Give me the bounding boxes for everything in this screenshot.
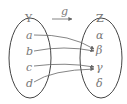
domain-element-a: a [26,29,33,42]
function-label: g [61,5,68,18]
domain-element-c: c [26,61,32,74]
mapping-arrow-d-gamma [34,69,94,82]
mapping-arrow-a-beta [34,35,94,49]
function-diagram: Y Z g a b c d α β γ δ [0,0,127,104]
codomain-element-alpha: α [96,29,104,42]
codomain-set-name: Z [96,12,104,25]
domain-element-d: d [26,77,33,90]
domain-set-name: Y [24,12,33,25]
domain-element-b: b [26,45,33,58]
codomain-element-gamma: γ [96,61,103,74]
codomain-element-delta: δ [96,77,103,90]
mapping-arrow-c-gamma [34,64,94,67]
mapping-arrow-b-beta [34,48,94,51]
codomain-element-beta: β [95,44,102,57]
